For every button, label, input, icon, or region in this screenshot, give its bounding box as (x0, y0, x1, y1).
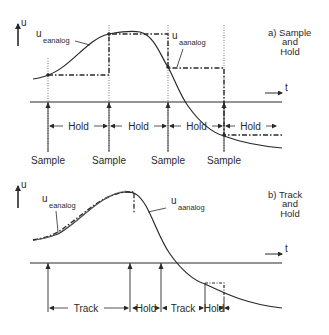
input-label-subscript: eanalog (49, 201, 76, 210)
panel-b-track-and-hold: u t u eanalog u aanalog b) Track (18, 179, 303, 314)
output-label: u (171, 195, 177, 206)
output-label-leader (177, 49, 183, 67)
interval-label: Hold (136, 303, 157, 314)
output-label-subscript: aanalog (178, 203, 205, 212)
sample-label: Sample (207, 155, 241, 166)
sample-hold-diagram: u t (0, 0, 329, 335)
interval-label: Hold (128, 121, 149, 132)
output-label: u (172, 30, 178, 41)
marker-up-arrows (46, 263, 164, 269)
input-label: u (36, 28, 42, 39)
interval-label: Hold (186, 121, 207, 132)
interval-label: Hold (68, 121, 89, 132)
panel-a-title-line3: Hold (280, 46, 300, 57)
interval-label: Hold (204, 303, 225, 314)
output-label-leader (148, 208, 166, 212)
y-axis-label: u (21, 17, 27, 28)
input-label-subscript: eanalog (43, 36, 70, 45)
y-axis-label: u (21, 179, 27, 190)
interval-label: Track (171, 303, 197, 314)
x-axis-label: t (285, 243, 288, 254)
output-label-subscript: aanalog (179, 38, 206, 47)
sample-label: Sample (31, 155, 65, 166)
interval-label: Hold (240, 121, 261, 132)
panel-b-title-line3: Hold (280, 208, 300, 219)
panel-a-sample-and-hold: u t (18, 17, 311, 166)
sample-label: Sample (151, 155, 185, 166)
x-axis-label: t (285, 82, 288, 93)
sample-up-arrows (46, 102, 227, 108)
output-analog-track (33, 192, 134, 240)
interval-label: Track (74, 303, 100, 314)
input-label-leader (56, 211, 58, 232)
sample-label: Sample (92, 155, 126, 166)
input-label-leader (75, 41, 90, 45)
input-label: u (42, 193, 48, 204)
